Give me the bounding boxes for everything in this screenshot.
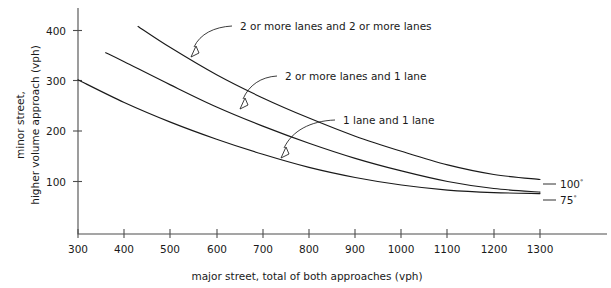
chart-figure: 400 300 200 100 300 400 500 600 700 800	[0, 0, 611, 288]
end-label-75-value: 75	[560, 194, 573, 206]
leader-line-2-or-more-and-1-lane	[243, 76, 277, 99]
x-tick-label-800: 800	[299, 243, 319, 255]
end-label-100: 100°	[560, 178, 583, 190]
x-tick-label-1300: 1300	[527, 243, 554, 255]
arrowhead-1-lane-and-1-lane	[281, 147, 289, 158]
arrowhead-2-or-more-and-2-or-more	[191, 46, 199, 57]
x-tick-label-700: 700	[253, 243, 273, 255]
y-axis-title-line2: higher volume approach (vph)	[29, 45, 41, 204]
annotation-label-2-or-more-and-2-or-more: 2 or more lanes and 2 or more lanes	[240, 20, 432, 32]
x-tick-label-1000: 1000	[388, 243, 415, 255]
x-tick-label-1100: 1100	[434, 243, 461, 255]
y-axis-tick-labels: 400 300 200 100	[46, 25, 66, 188]
y-tick-label-100: 100	[46, 176, 66, 188]
x-tick-label-900: 900	[345, 243, 365, 255]
leader-line-2-or-more-and-2-or-more	[194, 26, 232, 47]
chart-svg: 400 300 200 100 300 400 500 600 700 800	[0, 0, 611, 288]
x-tick-label-1200: 1200	[481, 243, 508, 255]
x-tick-label-600: 600	[207, 243, 227, 255]
annotation-label-2-or-more-and-1-lane: 2 or more lanes and 1 lane	[285, 70, 426, 82]
curve-1-lane-and-1-lane	[78, 80, 540, 194]
x-tick-label-400: 400	[114, 243, 134, 255]
end-label-100-mark: °	[580, 178, 583, 186]
y-tick-label-200: 200	[46, 125, 66, 137]
x-axis-tick-labels: 300 400 500 600 700 800 900 1000 1100 12…	[68, 243, 553, 255]
end-label-75: 75°	[560, 194, 577, 206]
y-tick-label-300: 300	[46, 75, 66, 87]
arrowhead-2-or-more-and-1-lane	[240, 98, 248, 109]
y-tick-label-400: 400	[46, 25, 66, 37]
curve-2-or-more-and-2-or-more	[138, 26, 540, 179]
end-labels: 100° 75°	[543, 178, 583, 206]
data-curves	[78, 26, 540, 193]
x-tick-label-500: 500	[160, 243, 180, 255]
annotation-labels: 2 or more lanes and 2 or more lanes 2 or…	[240, 20, 434, 126]
x-tick-label-300: 300	[68, 243, 88, 255]
y-axis-title-line1: minor street,	[14, 91, 26, 159]
end-label-100-value: 100	[560, 178, 580, 190]
x-axis-title: major street, total of both approaches (…	[191, 270, 422, 282]
end-label-75-mark: °	[573, 194, 576, 202]
annotation-label-1-lane-and-1-lane: 1 lane and 1 lane	[343, 114, 434, 126]
